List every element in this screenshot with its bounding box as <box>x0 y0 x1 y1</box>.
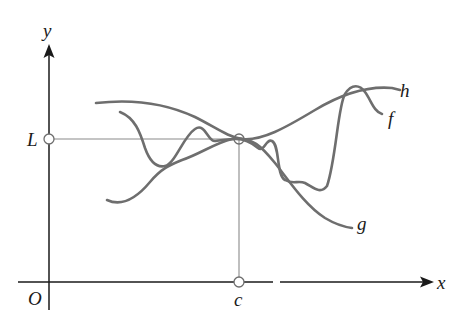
x-axis <box>18 277 434 288</box>
h-label: h <box>400 80 410 101</box>
y-axis <box>44 44 55 310</box>
origin-label: O <box>28 288 42 309</box>
curve-g <box>107 139 352 228</box>
squeeze-theorem-diagram: y x O L c h f g <box>0 0 453 329</box>
x-axis-label: x <box>436 272 446 293</box>
L-label: L <box>26 129 38 150</box>
curve-h <box>96 88 400 140</box>
c-label: c <box>234 289 243 310</box>
f-label: f <box>388 108 396 129</box>
c-marker-icon <box>234 277 244 287</box>
y-axis-label: y <box>41 20 52 41</box>
L-marker-icon <box>44 134 54 144</box>
g-label: g <box>357 213 367 234</box>
